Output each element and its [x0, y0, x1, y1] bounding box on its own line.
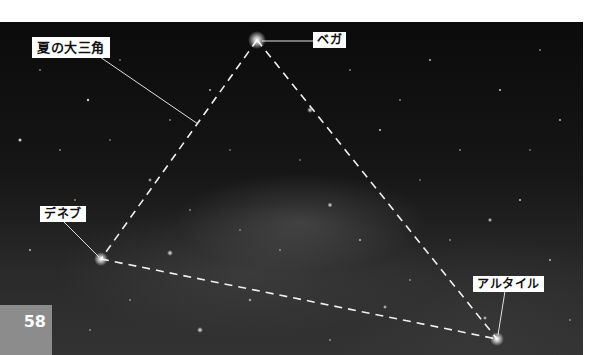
- page-number: 58: [0, 305, 52, 355]
- page-top-margin: [0, 0, 611, 22]
- summer-triangle-label: 夏の大三角: [32, 37, 110, 58]
- summer-triangle-lines: [101, 40, 497, 339]
- sky-overlay: [0, 22, 583, 355]
- altair-label: アルタイル: [473, 276, 544, 292]
- leader-lines: [64, 41, 505, 335]
- vega-star: [248, 31, 266, 49]
- deneb-label: デネブ: [40, 206, 86, 222]
- deneb-star: [94, 252, 108, 266]
- night-sky-photo: [0, 22, 583, 355]
- altair-star: [490, 332, 504, 346]
- star-field: [19, 49, 571, 341]
- vega-label: ベガ: [313, 32, 346, 48]
